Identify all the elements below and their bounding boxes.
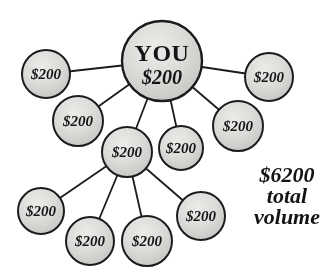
root-node-amount: $200 [141,66,182,88]
total-volume-annotation: $6200 total volume [254,162,320,229]
root-node-name: YOU [135,40,190,66]
member-node-3-label: $200 [253,69,285,85]
total-volume-line-3: volume [254,204,320,229]
member-node-5-label: $200 [111,144,143,160]
mlm-network-diagram: YOU $200 $200 $200 $200 $200 $200 $200 $… [0,0,331,276]
member-node-9-label: $200 [131,233,163,249]
member-node-10-label: $200 [185,208,217,224]
member-node-8-label: $200 [74,233,106,249]
member-node-7-label: $200 [25,203,57,219]
member-node-6-label: $200 [165,140,197,156]
diagram-canvas: YOU $200 $200 $200 $200 $200 $200 $200 $… [0,0,331,276]
member-node-2-label: $200 [62,113,94,129]
member-node-1-label: $200 [30,66,62,82]
member-node-4-label: $200 [222,118,254,134]
